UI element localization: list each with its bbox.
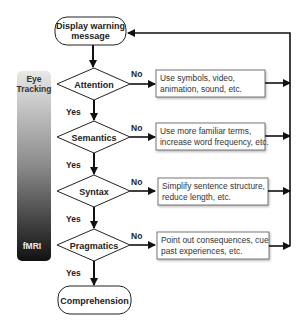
eye-tracking-label: Eye — [26, 74, 41, 84]
fmri-label: fMRI — [23, 241, 41, 251]
action-text: animation, sound, etc. — [160, 84, 242, 94]
end-node: Comprehension — [58, 286, 131, 314]
action-box-semantics: Use more familiar terms, increase word f… — [156, 123, 269, 150]
yes-label: Yes — [66, 214, 81, 224]
action-box-pragmatics: Point out consequences, cue past experie… — [157, 232, 269, 259]
eye-tracking-label-2: Tracking — [17, 84, 52, 94]
start-label-1: Display warning — [56, 21, 125, 31]
decision-syntax: Syntax — [57, 175, 130, 207]
action-text: Use symbols, video, — [160, 73, 235, 83]
decision-pragmatics: Pragmatics — [57, 229, 130, 261]
action-text: past experiences, etc. — [161, 246, 242, 256]
start-node: Display warning message — [55, 17, 126, 45]
decision-label: Attention — [74, 80, 114, 90]
decision-label: Syntax — [79, 187, 109, 197]
end-label: Comprehension — [60, 296, 129, 306]
start-label-2: message — [71, 31, 110, 41]
decision-label: Pragmatics — [70, 241, 119, 251]
measurement-gradient-bar: Eye Tracking fMRI — [17, 71, 52, 261]
no-label: No — [131, 123, 142, 133]
yes-label: Yes — [66, 160, 81, 170]
action-box-syntax: Simplify sentence structure, reduce leng… — [158, 178, 268, 205]
action-text: increase word frequency, etc. — [160, 137, 269, 147]
flowchart-canvas: Eye Tracking fMRI Display warning messag… — [0, 0, 306, 332]
decision-label: Semantics — [71, 133, 116, 143]
action-text: reduce length, etc. — [162, 192, 231, 202]
no-label: No — [131, 69, 142, 79]
no-label: No — [131, 231, 142, 241]
action-text: Point out consequences, cue — [161, 235, 269, 245]
decision-semantics: Semantics — [57, 121, 130, 153]
action-box-attention: Use symbols, video, animation, sound, et… — [156, 70, 265, 97]
yes-label: Yes — [66, 107, 81, 117]
decision-attention: Attention — [57, 68, 130, 100]
yes-label: Yes — [66, 268, 81, 278]
no-label: No — [131, 177, 142, 187]
action-text: Use more familiar terms, — [160, 126, 251, 136]
action-text: Simplify sentence structure, — [162, 181, 265, 191]
